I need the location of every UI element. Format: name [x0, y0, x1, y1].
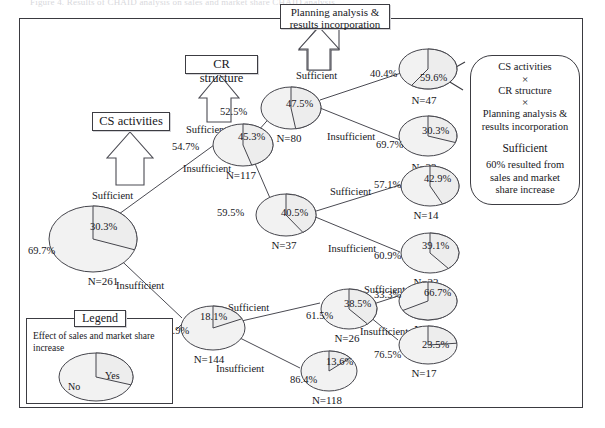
edge-label-planning-insufficient: Insufficient	[327, 131, 375, 142]
pie-n144-yes-percent: 18.1%	[200, 311, 227, 322]
pie-n144-sample-size: N=144	[176, 353, 242, 365]
pie-n14-no-percent: 57.1%	[374, 179, 401, 190]
pie-n80-yes-percent: 47.5%	[286, 98, 313, 109]
pie-n37-sample-size: N=37	[253, 239, 315, 251]
pie-node-n14: 42.9%57.1%N=14	[400, 165, 460, 207]
pie-node-n144: 18.1%81.9%N=144	[180, 305, 246, 351]
pie-node-root: 30.3%69.7%N=261	[48, 205, 138, 273]
edge-label-planning-insufficient-text: Insufficient	[327, 131, 375, 142]
pie-n33-yes-percent: 30.3%	[422, 125, 449, 136]
box-cs-activities[interactable]: CS activities	[92, 112, 170, 131]
legend-label-yes-text: Yes	[105, 370, 120, 381]
box-cr-structure-label: CR structure	[200, 57, 244, 85]
edge-label-planning-sufficient: Sufficient	[296, 70, 337, 81]
pie-root-no-percent: 69.7%	[28, 245, 55, 256]
pie-n14-yes-percent: 42.9%	[424, 173, 451, 184]
callout-line3b: results incorporation	[471, 121, 579, 134]
pie-n117-sample-size: N=117	[210, 169, 272, 181]
legend-pie	[58, 352, 134, 406]
legend-description-text: Effect of sales and market share increas…	[33, 331, 154, 353]
pie-n37-no-percent: 59.5%	[217, 207, 244, 218]
pie-node-n26: 38.5%61.5%N=26	[320, 288, 378, 330]
legend-label-no-text: No	[68, 381, 80, 392]
pie-n23-yes-percent: 39.1%	[422, 240, 449, 251]
edge-label-cs-sufficient: Sufficient	[92, 190, 133, 201]
pie-n118-sample-size: N=118	[298, 394, 356, 406]
chaid-diagram: Figure 4. Results of CHAID analysis on s…	[0, 0, 605, 428]
pie-node-n9: 66.7%33.3%N=9	[398, 281, 458, 321]
edge-label-mid-insufficient-text: Insufficient	[328, 243, 376, 254]
pie-n117-no-percent: 54.7%	[172, 141, 199, 152]
pie-n17-sample-size: N=17	[394, 367, 454, 379]
callout-line3a: Planning analysis &	[471, 108, 579, 121]
box-cs-activities-label: CS activities	[99, 114, 163, 128]
callout-line1: CS activities	[471, 61, 579, 74]
pie-n80-no-percent: 52.5%	[220, 106, 247, 117]
pie-node-n118: 13.6%86.4%N=118	[300, 350, 358, 392]
pie-n118-no-percent: 86.4%	[290, 374, 317, 385]
pie-n80-sample-size: N=80	[258, 132, 320, 144]
pie-node-n47: 59.6%40.4%N=47	[398, 48, 458, 90]
pie-node-n33: 30.3%69.7%N=33	[398, 115, 458, 157]
pie-n14-sample-size: N=14	[396, 209, 456, 221]
legend-label-yes: Yes	[105, 370, 120, 381]
callout-result-line1: 60% resulted from	[471, 159, 579, 172]
legend-title-text: Legend	[82, 311, 118, 325]
pie-n118-yes-percent: 13.6%	[326, 356, 353, 367]
callout-result-line2: sales and market	[471, 172, 579, 185]
box-planning-line1: Planning analysis &	[286, 6, 384, 18]
pie-n9-no-percent: 33.3%	[374, 289, 401, 300]
edge-label-mid-insufficient: Insufficient	[328, 243, 376, 254]
pie-root-yes-percent: 30.3%	[90, 221, 117, 232]
pie-node-n17: 23.5%76.5%N=17	[398, 325, 458, 365]
pie-n47-sample-size: N=47	[394, 94, 454, 106]
callout-condition: Sufficient	[499, 142, 550, 156]
legend-title: Legend	[74, 310, 126, 327]
pie-n26-sample-size: N=26	[318, 332, 376, 344]
edge-label-planning-sufficient-text: Sufficient	[296, 70, 337, 81]
pie-n9-yes-percent: 66.7%	[424, 287, 451, 298]
pie-n17-no-percent: 76.5%	[374, 349, 401, 360]
callout-times-1: ×	[471, 74, 579, 85]
callout-box: CS activities × CR structure × Planning …	[470, 55, 580, 205]
legend-label-no: No	[68, 381, 80, 392]
pie-n47-yes-percent: 59.6%	[420, 72, 447, 83]
pie-n37-yes-percent: 40.5%	[281, 207, 308, 218]
box-planning-analysis[interactable]: Planning analysis & results incorporatio…	[280, 4, 390, 29]
pie-n33-no-percent: 69.7%	[376, 139, 403, 150]
pie-n17-yes-percent: 23.5%	[422, 339, 449, 350]
pie-n47-no-percent: 40.4%	[370, 68, 397, 79]
callout-times-2: ×	[471, 97, 579, 108]
pie-node-n37: 40.5%59.5%N=37	[255, 193, 317, 237]
edge-label-mid-sufficient-text: Sufficient	[330, 186, 371, 197]
pie-root-sample-size: N=261	[58, 275, 148, 287]
callout-result-line3: share increase	[471, 184, 579, 197]
box-cr-structure[interactable]: CR structure	[185, 55, 258, 74]
pie-n26-yes-percent: 38.5%	[344, 298, 371, 309]
box-planning-line2: results incorporation	[286, 18, 384, 30]
pie-node-n80: 47.5%52.5%N=80	[260, 86, 322, 130]
pie-n23-no-percent: 60.9%	[374, 250, 401, 261]
edge-label-mid-sufficient: Sufficient	[330, 186, 371, 197]
pie-node-n23: 39.1%60.9%N=23	[400, 232, 460, 274]
edge-label-cs-sufficient-text: Sufficient	[92, 190, 133, 201]
pie-n26-no-percent: 61.5%	[306, 310, 333, 321]
